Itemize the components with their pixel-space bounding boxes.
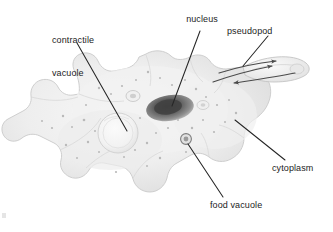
small-vacuole-organelle-right: [197, 101, 209, 110]
amoeba-cell-body: [2, 51, 271, 192]
contractile-vacuole-organelle: [98, 113, 138, 153]
label-contractile-vacuole-line2: vacuole: [52, 68, 94, 79]
food-vacuole-organelle: [181, 134, 192, 145]
corner-artifact: [2, 213, 6, 218]
amoeba-diagram: contractile vacuole nucleus pseudopod cy…: [0, 0, 333, 232]
diagram-canvas: [0, 0, 333, 232]
label-contractile-vacuole-line1: contractile: [52, 35, 94, 46]
small-vacuole-organelle: [126, 91, 140, 102]
label-contractile-vacuole: contractile vacuole: [52, 13, 94, 101]
label-cytoplasm: cytoplasm: [272, 163, 313, 174]
pseudopod-tip: [290, 64, 304, 74]
label-pseudopod: pseudopod: [227, 26, 272, 37]
label-nucleus: nucleus: [180, 14, 224, 25]
label-food-vacuole: food vacuole: [210, 200, 262, 211]
